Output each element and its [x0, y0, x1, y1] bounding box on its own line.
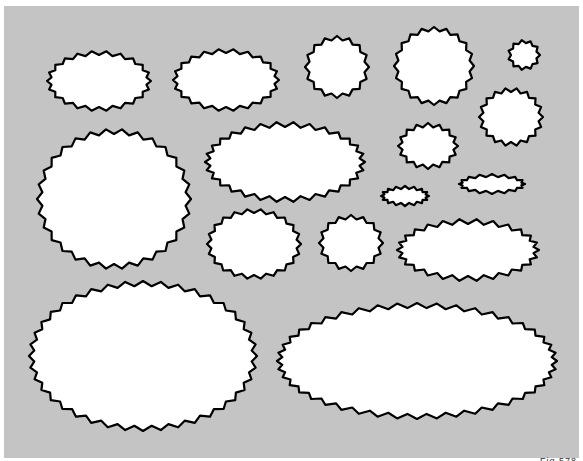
starburst-circle-mid-1 — [398, 123, 458, 169]
starburst-oval-mid-3 — [207, 209, 301, 278]
starburst-circle-small — [509, 40, 540, 70]
starburst-oval-thin-1 — [381, 186, 429, 206]
starburst-circle-mid-2 — [479, 88, 543, 145]
starburst-circle-top-1 — [305, 36, 369, 98]
starburst-oval-middle — [205, 122, 365, 202]
starburst-oval-bottom-left — [29, 281, 257, 431]
starburst-oval-mid-4 — [397, 219, 539, 281]
figure-caption: Fig 578 — [540, 455, 577, 461]
starburst-circle-top-2 — [394, 27, 474, 105]
starburst-oval-top-2 — [173, 49, 279, 110]
starburst-canvas — [0, 0, 583, 461]
starburst-oval-thin-2 — [459, 174, 525, 194]
starburst-circle-large — [37, 129, 191, 268]
starburst-oval-bottom-right — [277, 303, 557, 419]
starburst-oval-top-1 — [47, 51, 151, 110]
starburst-circle-mid-3 — [319, 215, 383, 271]
